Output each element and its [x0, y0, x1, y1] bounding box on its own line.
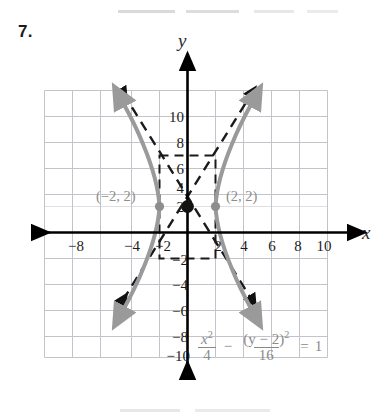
equation-left-denominator: 4: [198, 347, 216, 363]
y-tick-label: −8: [172, 329, 188, 346]
y-tick-label: −10: [167, 348, 190, 365]
equation-right-numerator: (y − 2)2: [238, 330, 294, 347]
x-tick-label: 8: [294, 238, 302, 255]
equation-right-fraction: (y − 2)2 16: [238, 330, 294, 364]
y-tick-label: −4: [172, 277, 188, 294]
y-tick-label: 10: [169, 109, 184, 126]
equation-left-numerator: x2: [196, 330, 218, 347]
x-tick-label: 10: [317, 238, 332, 255]
x-tick-label: −4: [124, 238, 140, 255]
equation-right-denominator: 16: [254, 347, 279, 363]
hyperbola-equation: x2 4 − (y − 2)2 16 = 1: [196, 330, 322, 364]
equation-right-exponent: 2: [284, 329, 289, 340]
x-tick-label: −8: [68, 238, 84, 255]
y-tick-label: 8: [177, 135, 185, 152]
x-tick-label: 2: [214, 238, 222, 255]
y-tick-label: −2: [172, 252, 188, 269]
axis-lines: [36, 66, 352, 375]
vertex-right-label: (2, 2): [226, 188, 257, 205]
equation-equals-sign: =: [298, 338, 310, 355]
x-tick-label: −2: [155, 238, 171, 255]
y-tick-label: 6: [177, 161, 185, 178]
vertex-right-marker: [211, 202, 220, 211]
vertex-left-label: (−2, 2): [96, 188, 136, 205]
equation-left-exponent: 2: [208, 329, 213, 340]
y-tick-label: 2: [177, 199, 185, 216]
x-tick-label: 6: [268, 238, 276, 255]
vertex-left-marker: [155, 202, 164, 211]
x-tick-label: 4: [240, 238, 248, 255]
y-tick-label: 4: [177, 180, 185, 197]
left-branch-lower: [121, 207, 160, 315]
y-tick-label: −6: [172, 303, 188, 320]
right-branch-lower: [216, 207, 255, 315]
equation-right-side: 1: [315, 338, 323, 355]
graph-figure: 7. y x: [0, 0, 392, 419]
equation-left-fraction: x2 4: [196, 330, 218, 364]
equation-operator: −: [222, 338, 234, 355]
